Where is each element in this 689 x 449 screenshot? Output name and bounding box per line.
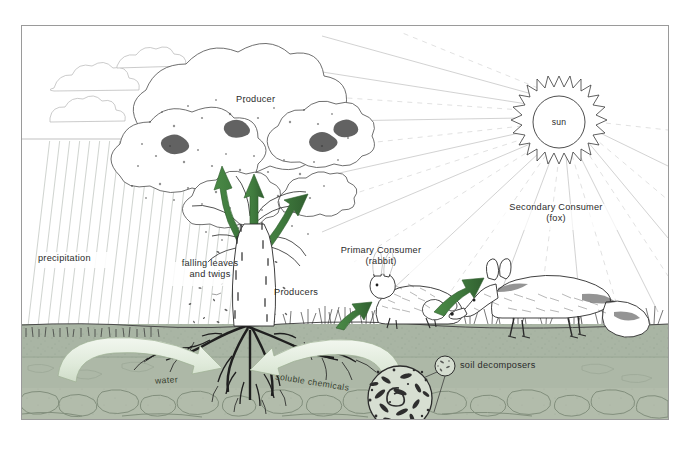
- ecosystem-diagram-frame: Producer precipitation falling leaves an…: [21, 25, 669, 420]
- tree-trunk-bark: [232, 222, 275, 326]
- ecosystem-illustration: [22, 26, 668, 419]
- subsoil-layer: [22, 358, 668, 388]
- diagram-canvas: Producer precipitation falling leaves an…: [0, 0, 689, 449]
